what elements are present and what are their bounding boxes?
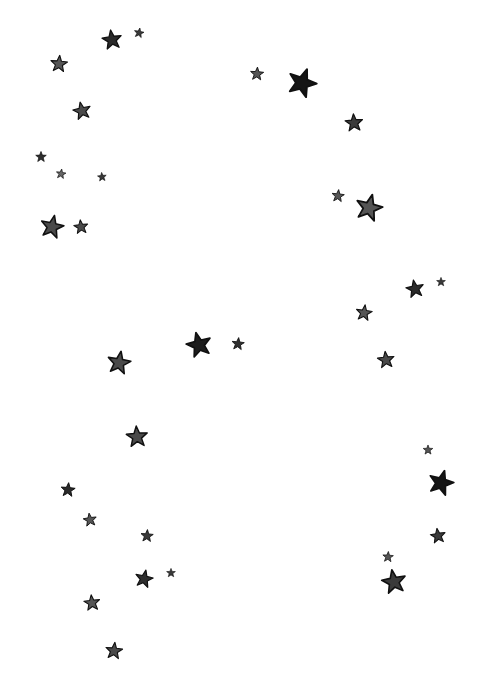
star-icon bbox=[140, 529, 155, 544]
star-icon bbox=[82, 593, 102, 613]
star-icon bbox=[133, 27, 146, 40]
star-icon bbox=[124, 424, 150, 450]
star-icon bbox=[100, 28, 125, 53]
star-icon bbox=[424, 466, 459, 501]
star-icon bbox=[428, 526, 447, 545]
star-icon bbox=[382, 551, 395, 564]
star-icon bbox=[351, 190, 387, 226]
star-icon bbox=[104, 641, 125, 662]
star-icon bbox=[82, 512, 99, 529]
star-icon bbox=[376, 350, 397, 371]
star-icon bbox=[354, 303, 374, 323]
star-icon bbox=[132, 567, 156, 591]
star-icon bbox=[230, 336, 245, 351]
star-icon bbox=[72, 218, 90, 236]
star-icon bbox=[59, 481, 76, 498]
star-icon bbox=[182, 328, 216, 362]
star-icon bbox=[70, 99, 94, 123]
star-icon bbox=[55, 168, 67, 180]
star-icon bbox=[423, 445, 434, 456]
star-icon bbox=[104, 348, 134, 378]
star-icon bbox=[378, 566, 409, 597]
star-icon bbox=[35, 151, 47, 163]
star-icon bbox=[403, 277, 426, 300]
star-icon bbox=[166, 568, 176, 578]
star-icon bbox=[97, 172, 108, 183]
star-icon bbox=[49, 54, 70, 75]
star-icon bbox=[37, 212, 68, 243]
star-icon bbox=[249, 66, 265, 82]
star-icon bbox=[436, 277, 446, 287]
star-field-image bbox=[0, 0, 480, 693]
star-icon bbox=[281, 62, 322, 103]
star-icon bbox=[343, 112, 364, 133]
star-icon bbox=[330, 188, 345, 203]
